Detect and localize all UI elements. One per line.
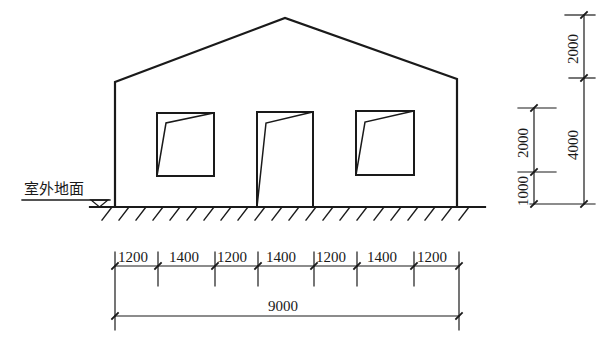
dim-vert-outer-2000: 2000	[565, 34, 581, 64]
dim-total: 9000	[268, 298, 298, 314]
dim-seg-1: 1200	[118, 249, 148, 265]
ground-label: 室外地面	[24, 180, 84, 198]
window-right	[356, 111, 414, 175]
dim-seg-5: 1200	[316, 249, 346, 265]
ground-hatching	[102, 207, 469, 220]
dim-seg-3: 1200	[217, 249, 247, 265]
elevation-drawing: 室外地面 1200 1400 1200 1400 1200 1400 1200 …	[0, 0, 607, 362]
dim-seg-6: 1400	[367, 249, 397, 265]
door	[257, 112, 313, 207]
dim-seg-2: 1400	[169, 249, 199, 265]
dim-vert-inner-2000: 2000	[515, 128, 531, 158]
dim-vert-4000: 4000	[565, 130, 581, 160]
dim-seg-4: 1400	[266, 249, 296, 265]
window-left	[157, 113, 214, 176]
dim-seg-7: 1200	[417, 249, 447, 265]
dim-vert-1000: 1000	[515, 176, 531, 206]
